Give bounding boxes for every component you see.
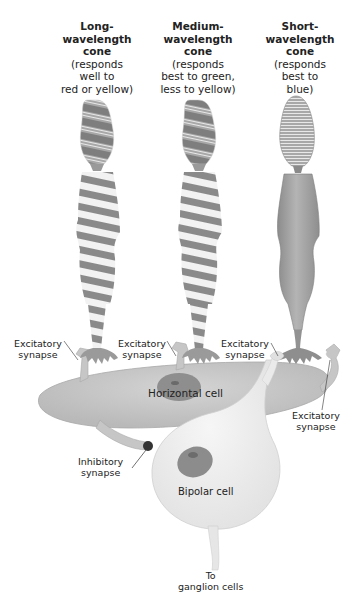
short-cone-outer-segment: [280, 96, 315, 166]
label-line: Inhibitory: [78, 456, 123, 467]
excitatory-synapse-label-3: Excitatory synapse: [221, 338, 269, 360]
excitatory-synapse-label-2: Excitatory synapse: [118, 338, 166, 360]
short-wavelength-cone: [276, 96, 322, 364]
label-line: Excitatory: [14, 338, 62, 349]
label-line: synapse: [221, 349, 269, 360]
label-line: Excitatory: [221, 338, 269, 349]
label-line: ganglion cells: [178, 581, 243, 592]
short-cone-axon: [294, 330, 302, 350]
label-line: To: [178, 570, 243, 581]
inhibitory-synapse-label: Inhibitory synapse: [78, 456, 123, 478]
short-cone-inner-segment: [277, 174, 319, 330]
to-ganglion-cells-label: To ganglion cells: [178, 570, 243, 592]
long-cone-axon: [88, 304, 106, 350]
label-line: synapse: [292, 421, 340, 432]
label-line: synapse: [14, 349, 62, 360]
excitatory-synapse-label-4: Excitatory synapse: [292, 410, 340, 432]
label-line: synapse: [78, 467, 123, 478]
long-wavelength-cone: [76, 100, 120, 364]
medium-cone-inner-segment: [178, 172, 222, 304]
long-cone-inner-segment: [76, 172, 120, 304]
label-line: Excitatory: [118, 338, 166, 349]
retina-diagram: [0, 0, 354, 593]
horizontal-cell-label: Horizontal cell: [148, 388, 223, 399]
bipolar-axon: [208, 526, 219, 570]
bipolar-cell-label: Bipolar cell: [178, 486, 234, 497]
medium-cone-outer-segment: [182, 100, 215, 164]
medium-wavelength-cone: [178, 100, 222, 364]
long-cone-outer-segment: [80, 100, 113, 164]
label-line: synapse: [118, 349, 166, 360]
medium-cone-axon: [190, 304, 208, 350]
label-line: Excitatory: [292, 410, 340, 421]
excitatory-synapse-label-1: Excitatory synapse: [14, 338, 62, 360]
